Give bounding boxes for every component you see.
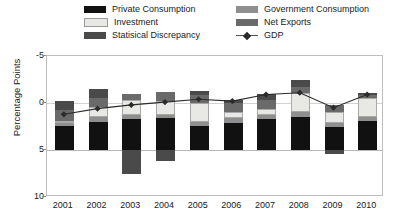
x-axis-tick-label-2001: 2001 [46,200,80,210]
legend-label: Statisical Discrepancy [112,30,200,40]
legend-item-gdp: GDP [236,30,284,40]
bar-segment-net-exports [291,87,310,93]
bar-group-2001 [47,56,81,195]
bar-segment-investment [190,103,209,122]
legend-label: Private Consumption [112,4,196,14]
bar-segment-private-consumption [257,119,276,150]
bar-segment-statisical-discrepancy [257,94,276,101]
bar-segment-statisical-discrepancy [190,91,209,96]
legend-item-private-consumption: Private Consumption [84,4,196,14]
legend-item-net-exports: Net Exports [236,17,311,27]
bar-segment-private-consumption [224,123,243,150]
bar-group-2004 [148,56,182,195]
bar-segment-net-exports [122,94,141,101]
bar-group-2010 [350,56,384,195]
line-diamond-marker-icon [236,32,258,39]
bar-segment-statisical-discrepancy [122,150,141,174]
x-axis-tick-label-2009: 2009 [315,200,349,210]
bar-segment-net-exports [325,105,344,113]
bar-segment-government-consumption [156,115,175,118]
bar-segment-investment [325,112,344,122]
bar-segment-government-consumption [122,115,141,119]
x-axis-tick-label-2005: 2005 [181,200,215,210]
bar-segment-investment [122,100,141,115]
bar-segment-net-exports [257,100,276,108]
bar-group-2005 [182,56,216,195]
bar-segment-investment [89,107,108,117]
bar-segment-net-exports [55,110,74,121]
y-axis-tick-label: 10 [18,192,44,201]
bar-group-2002 [81,56,115,195]
x-axis-tick-label-2003: 2003 [113,200,147,210]
bar-segment-statisical-discrepancy [89,89,108,98]
x-axis-tick-label-2004: 2004 [147,200,181,210]
legend-item-investment: Investment [84,17,158,27]
x-axis-tick-label-2010: 2010 [349,200,383,210]
bar-segment-statisical-discrepancy [224,100,243,103]
bar-segment-statisical-discrepancy [325,150,344,154]
bar-segment-investment [156,101,175,115]
bar-segment-private-consumption [358,121,377,150]
square-swatch-icon [236,6,258,13]
x-axis-tick-label-2006: 2006 [214,200,248,210]
bar-segment-investment [257,109,276,116]
bar-segment-private-consumption [89,122,108,150]
bar-segment-private-consumption [325,127,344,150]
bar-segment-statisical-discrepancy [55,101,74,109]
y-axis-tick-label: 0 [18,98,44,107]
bar-segment-net-exports [156,92,175,101]
y-axis-tick-mark [42,196,46,197]
bar-segment-government-consumption [224,118,243,123]
legend-item-statisical-discrepancy: Statisical Discrepancy [84,30,200,40]
bar-segment-government-consumption [89,117,108,122]
bar-segment-statisical-discrepancy [358,93,377,95]
square-swatch-icon [84,6,106,13]
bar-segment-net-exports [224,103,243,112]
stacked-bar-chart: Private ConsumptionInvestmentStatisical … [0,0,396,222]
y-axis-tick-label: -5 [18,51,44,60]
legend-label: Net Exports [264,17,311,27]
bar-segment-net-exports [190,95,209,103]
bar-group-2008 [283,56,317,195]
chart-legend: Private ConsumptionInvestmentStatisical … [84,4,384,44]
bar-group-2009 [317,56,351,195]
bar-segment-statisical-discrepancy [291,80,310,87]
square-swatch-icon [84,32,106,39]
y-axis-tick-label: 5 [18,145,44,154]
bar-group-2003 [114,56,148,195]
bar-segment-investment [358,98,377,117]
bar-segment-private-consumption [190,126,209,150]
square-swatch-icon [84,18,108,27]
bar-segment-statisical-discrepancy [156,150,175,161]
legend-label: GDP [264,30,284,40]
bar-segment-government-consumption [358,117,377,121]
legend-label: Government Consumption [264,4,369,14]
bar-segment-government-consumption [257,115,276,119]
bar-group-2006 [216,56,250,195]
x-axis-tick-label-2007: 2007 [248,200,282,210]
bar-segment-government-consumption [190,122,209,126]
bar-segment-private-consumption [55,126,74,150]
legend-item-government-consumption: Government Consumption [236,4,369,14]
bar-segment-private-consumption [156,118,175,150]
bar-segment-government-consumption [325,123,344,128]
bar-segment-investment [224,112,243,118]
bar-segment-investment [55,121,74,123]
bar-segment-government-consumption [291,112,310,117]
plot-area [46,55,383,196]
x-axis-ticks: 2001200220032004200520062007200820092010 [46,200,383,216]
x-axis-tick-label-2008: 2008 [282,200,316,210]
bar-segment-private-consumption [291,117,310,150]
bar-segment-net-exports [89,98,108,106]
bar-segment-investment [291,93,310,113]
square-swatch-icon [236,19,258,26]
bar-segment-private-consumption [122,119,141,150]
x-axis-tick-label-2002: 2002 [80,200,114,210]
bar-group-2007 [249,56,283,195]
legend-label: Investment [114,17,158,27]
